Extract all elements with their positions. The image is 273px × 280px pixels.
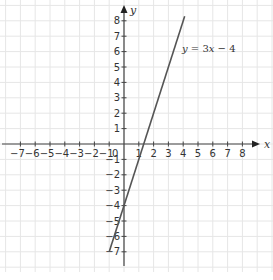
y-tick-label: 3 bbox=[114, 92, 120, 103]
x-tick-label: −2 bbox=[84, 148, 99, 159]
y-tick-label: −3 bbox=[105, 185, 120, 196]
x-tick-label: −7 bbox=[10, 148, 25, 159]
x-tick-label: 3 bbox=[165, 148, 171, 159]
y-tick-label: −2 bbox=[105, 169, 120, 180]
x-tick-label: −6 bbox=[25, 148, 40, 159]
equation-eq: = 3 bbox=[188, 43, 209, 54]
x-tick-label: 4 bbox=[180, 148, 186, 159]
y-axis-label: y bbox=[129, 4, 137, 17]
x-tick-label: −3 bbox=[69, 148, 84, 159]
y-tick-label: 2 bbox=[114, 108, 120, 119]
y-tick-label: 6 bbox=[114, 46, 120, 57]
plot-labels: x y 0 y = 3x − 4 bbox=[112, 4, 271, 159]
origin-label: 0 bbox=[112, 148, 118, 159]
x-tick-label: −4 bbox=[54, 148, 69, 159]
grid-lines bbox=[0, 0, 273, 272]
x-tick-label: 6 bbox=[210, 148, 216, 159]
x-tick-label: 5 bbox=[195, 148, 201, 159]
x-axis-arrow-icon bbox=[252, 141, 260, 148]
x-tick-label: 8 bbox=[239, 148, 245, 159]
x-axis-label: x bbox=[264, 138, 271, 151]
x-tick-label: 2 bbox=[150, 148, 156, 159]
x-tick-label: −5 bbox=[40, 148, 55, 159]
equation-label: y = 3x − 4 bbox=[181, 43, 236, 54]
y-tick-label: 8 bbox=[114, 15, 120, 26]
y-tick-label: 4 bbox=[114, 77, 120, 88]
chart: −7−6−5−4−3−2−112345678−7−6−5−4−3−2−11234… bbox=[0, 0, 273, 280]
y-tick-label: 5 bbox=[114, 62, 120, 73]
y-tick-label: 1 bbox=[114, 123, 120, 134]
y-axis-arrow-icon bbox=[121, 5, 128, 13]
y-tick-label: −7 bbox=[105, 246, 120, 257]
equation-rest: − 4 bbox=[214, 43, 235, 54]
y-tick-label: 7 bbox=[114, 31, 120, 42]
y-tick-label: −4 bbox=[105, 200, 120, 211]
x-tick-label: 7 bbox=[224, 148, 230, 159]
